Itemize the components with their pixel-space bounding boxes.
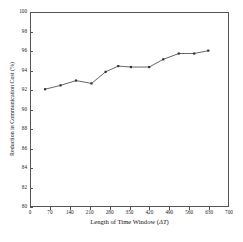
data-point-marker [117, 65, 119, 67]
x-axis-title-suffix: ) [167, 218, 169, 225]
data-point-marker [148, 66, 150, 68]
y-axis-tick-label: 90 [22, 107, 27, 112]
x-axis-tick-label: 560 [185, 210, 193, 215]
y-axis-tick-mark [30, 32, 33, 33]
series-markers [44, 50, 209, 91]
x-axis-tick-mark [70, 207, 71, 210]
figure-container: Reduction in Communication Cost (%) 8082… [0, 0, 243, 242]
data-point-marker [178, 52, 180, 54]
x-axis-tick-mark [149, 207, 150, 210]
x-axis-tick-mark [209, 207, 210, 210]
y-axis-tick-mark [30, 110, 33, 111]
data-point-marker [75, 79, 77, 81]
plot-area [30, 12, 229, 207]
x-axis-tick-mark [50, 207, 51, 210]
y-axis-tick-label: 94 [22, 68, 27, 73]
x-axis-title: Length of Time Window (ΔT) [30, 219, 229, 226]
y-axis-tick-label: 80 [22, 204, 27, 209]
cut-off-caption [18, 234, 168, 242]
x-axis-tick-label: 490 [165, 210, 173, 215]
y-axis-tick-label: 98 [22, 29, 27, 34]
x-axis-tick-mark [169, 207, 170, 210]
y-axis-tick-mark [30, 188, 33, 189]
x-axis-tick-label: 210 [86, 210, 94, 215]
y-axis-tick-mark [30, 207, 33, 208]
y-axis-tick-mark [30, 12, 33, 13]
x-axis-title-prefix: Length of Time Window ( [90, 218, 159, 225]
y-axis-tick-label: 84 [22, 165, 27, 170]
y-axis-tick-label: 88 [22, 126, 27, 131]
data-point-marker [44, 88, 46, 90]
x-axis-tick-mark [130, 207, 131, 210]
y-axis-tick-mark [30, 90, 33, 91]
y-axis-tick-label: 100 [19, 9, 27, 14]
data-point-marker [59, 84, 61, 86]
y-axis-tick-mark [30, 129, 33, 130]
y-axis-tick-mark [30, 71, 33, 72]
x-axis-tick-mark [90, 207, 91, 210]
y-axis-tick-label: 96 [22, 48, 27, 53]
data-series-svg [31, 13, 228, 206]
y-axis-tick-label: 92 [22, 87, 27, 92]
series-line [45, 51, 208, 90]
data-point-marker [193, 52, 195, 54]
x-axis-tick-label: 700 [225, 210, 233, 215]
data-point-marker [207, 50, 209, 52]
x-axis-tick-label: 630 [205, 210, 213, 215]
x-axis-tick-label: 0 [29, 210, 32, 215]
data-point-marker [90, 82, 92, 84]
y-axis-tick-mark [30, 149, 33, 150]
x-axis-tick-mark [189, 207, 190, 210]
y-axis-tick-label: 86 [22, 146, 27, 151]
x-axis-tick-mark [110, 207, 111, 210]
data-point-marker [162, 58, 164, 60]
x-axis-tick-label: 350 [126, 210, 134, 215]
data-point-marker [130, 66, 132, 68]
x-axis-tick-label: 420 [146, 210, 154, 215]
y-axis-tick-label: 82 [22, 185, 27, 190]
x-axis-tick-label: 70 [47, 210, 52, 215]
data-point-marker [104, 71, 106, 73]
x-axis-tick-label: 280 [106, 210, 114, 215]
y-axis-tick-mark [30, 168, 33, 169]
x-axis-title-symbol: ΔT [159, 218, 167, 225]
y-axis-tick-labels: 80828486889092949698100 [8, 0, 27, 242]
y-axis-tick-mark [30, 51, 33, 52]
x-axis-tick-label: 140 [66, 210, 74, 215]
